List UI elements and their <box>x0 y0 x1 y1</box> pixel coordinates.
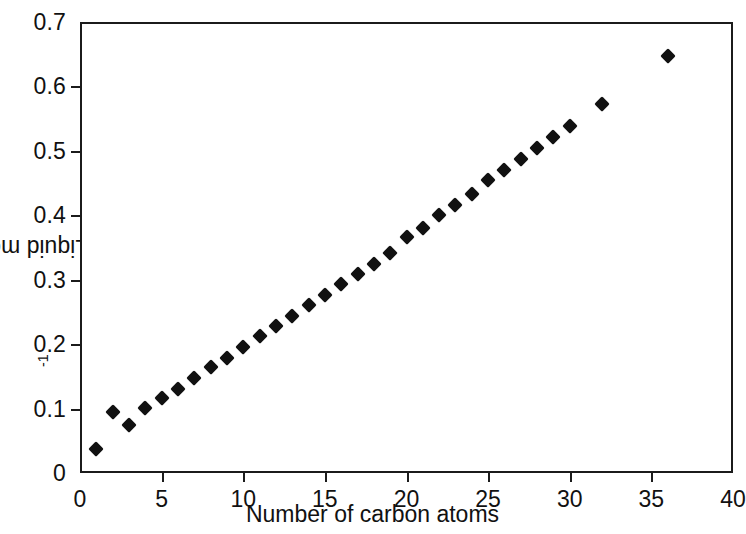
x-axis-tick <box>325 473 327 482</box>
y-axis-label: Liquid molar volume (m3 kmol-1) <box>6 22 40 473</box>
y-axis-tick <box>71 86 80 88</box>
x-axis-tick <box>162 473 164 482</box>
y-axis-tick <box>71 409 80 411</box>
x-axis-label: Number of carbon atoms <box>0 501 745 528</box>
y-axis-label-sup-inverse: -1 <box>36 354 52 367</box>
x-axis-tick <box>651 473 653 482</box>
x-axis-tick <box>243 473 245 482</box>
x-axis-tick <box>407 473 409 482</box>
plot-frame <box>80 22 733 473</box>
y-axis-tick-label: 0 <box>53 460 66 487</box>
x-axis-tick <box>570 473 572 482</box>
x-axis-tick <box>488 473 490 482</box>
